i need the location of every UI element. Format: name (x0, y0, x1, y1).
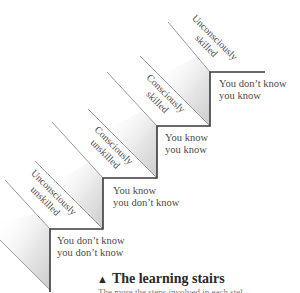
state-line: you don’t know (113, 197, 179, 209)
figure-caption: ▲The learning stairs (97, 271, 225, 287)
state-line: you don’t know (57, 247, 125, 259)
state-line: You don’t know (57, 235, 125, 247)
state-line: You know (113, 185, 179, 197)
state-line: you know (219, 90, 287, 102)
state-line: you know (165, 144, 208, 156)
caption-body-partial: The more the steps involved in each stel (98, 287, 243, 293)
caption-title: The learning stairs (112, 271, 225, 286)
state-line: You know (165, 132, 208, 144)
state-label-1: You don’t know you don’t know (57, 235, 125, 259)
stairs-illustration (0, 0, 300, 293)
state-label-4: You don’t know you know (219, 78, 287, 102)
state-label-3: You know you know (165, 132, 208, 156)
state-line: You don’t know (219, 78, 287, 90)
triangle-marker-icon: ▲ (97, 273, 108, 285)
state-label-2: You know you don’t know (113, 185, 179, 209)
